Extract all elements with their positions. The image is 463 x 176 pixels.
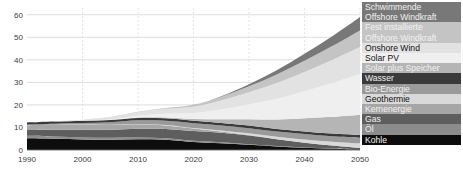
x-axis-tick-label: 1990 [18, 155, 36, 164]
y-axis-tick-label: 10 [14, 123, 23, 132]
legend-item[interactable]: Onshore Wind [362, 43, 461, 53]
x-axis-tick-label: 2030 [240, 155, 258, 164]
legend-item[interactable]: Schwimmende Offshore Windkraft [362, 2, 461, 22]
legend-item[interactable]: Solar plus Speicher [362, 63, 461, 73]
legend-item[interactable]: Gas [362, 114, 461, 124]
legend-item[interactable]: Kohle [362, 135, 461, 145]
x-axis-tick-label: 2010 [129, 155, 147, 164]
chart-screenshot: 0102030405060 19902000201020202030204020… [0, 0, 463, 176]
legend-item[interactable]: Öl [362, 124, 461, 134]
legend-item[interactable]: Wasser [362, 73, 461, 83]
y-axis-tick-label: 60 [14, 11, 23, 20]
chart-legend: Schwimmende Offshore WindkraftFest insta… [362, 2, 461, 145]
y-axis-tick-label: 20 [14, 101, 23, 110]
y-axis-tick-label: 0 [19, 146, 24, 155]
x-axis-tick-label: 2020 [185, 155, 203, 164]
y-axis-tick-label: 50 [14, 33, 23, 42]
y-axis-tick-label: 30 [14, 78, 23, 87]
x-axis-tick-label: 2040 [296, 155, 314, 164]
x-axis-tick-label: 2000 [74, 155, 92, 164]
x-axis-tick-label: 2050 [351, 155, 369, 164]
legend-item[interactable]: Solar PV [362, 53, 461, 63]
legend-item[interactable]: Fest installierte Offshore Windkraft [362, 22, 461, 42]
y-axis-tick-label: 40 [14, 56, 23, 65]
legend-item[interactable]: Geothermie [362, 94, 461, 104]
x-axis-ticks: 1990200020102020203020402050 [18, 155, 369, 164]
legend-item[interactable]: Kernenergie [362, 104, 461, 114]
y-axis-ticks: 0102030405060 [14, 11, 23, 155]
legend-item[interactable]: Bio-Energie [362, 84, 461, 94]
